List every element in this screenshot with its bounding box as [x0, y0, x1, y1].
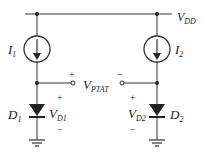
vd2-minus-sign: −: [130, 124, 136, 135]
vd1-label: VD1: [49, 106, 67, 123]
i2-label: I2: [174, 42, 183, 59]
d1-label: D1: [7, 107, 21, 124]
vdd-label: VDD: [177, 10, 196, 26]
circuit-diagram: VDD I1 + D1 VD1 + − I2 − VPTAT D2 VD2: [0, 0, 207, 156]
vd1-minus-sign: −: [57, 124, 63, 135]
vptat-minus-sign: −: [117, 69, 123, 80]
vptat-plus-sign: +: [69, 69, 75, 80]
output-terminal-plus: [71, 81, 75, 85]
diode-d2: [149, 104, 165, 117]
ground-icon-right: [149, 140, 165, 146]
d2-label: D2: [169, 107, 183, 124]
current-source-i1: [24, 36, 50, 62]
vd2-label: VD2: [128, 106, 146, 123]
arrow-down-icon: [33, 53, 41, 60]
ground-icon-left: [29, 140, 45, 146]
arrow-down-icon: [153, 53, 161, 60]
current-source-i2: [144, 36, 170, 62]
output-terminal-minus: [120, 81, 124, 85]
vd1-plus-sign: +: [57, 92, 63, 103]
vd2-plus-sign: +: [130, 92, 136, 103]
diode-d1: [29, 104, 45, 117]
vptat-label: VPTAT: [83, 77, 109, 94]
i1-label: I1: [7, 42, 16, 59]
